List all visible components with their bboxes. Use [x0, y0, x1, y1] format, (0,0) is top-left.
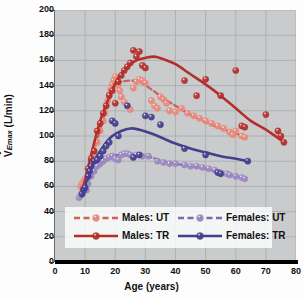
data-point	[109, 88, 115, 94]
data-point	[136, 152, 142, 158]
data-point	[203, 76, 209, 82]
data-point	[94, 128, 100, 134]
data-point	[163, 100, 169, 106]
x-tick-label: 0	[43, 266, 67, 276]
data-point	[242, 124, 248, 130]
data-point	[172, 109, 178, 115]
legend: Males: UTFemales: UTMales: TRFemales: TR	[65, 207, 272, 248]
y-tick-mark	[49, 237, 54, 238]
data-point	[154, 158, 160, 164]
data-point	[233, 128, 239, 134]
x-axis-line	[55, 260, 298, 264]
data-point	[233, 173, 239, 179]
data-point	[281, 139, 287, 145]
data-point	[106, 139, 112, 145]
data-point	[181, 146, 187, 152]
data-point	[154, 105, 160, 111]
data-point	[145, 153, 151, 159]
y-tick-mark	[49, 186, 54, 187]
data-point	[178, 105, 184, 111]
x-tick-label: 40	[164, 266, 188, 276]
data-point	[263, 111, 269, 117]
legend-item-males-tr[interactable]: Males: TR	[73, 227, 169, 244]
data-point	[187, 163, 193, 169]
data-point	[184, 110, 190, 116]
data-point	[115, 79, 121, 85]
data-point	[91, 148, 97, 154]
legend-label: Females: TR	[226, 230, 285, 241]
y-axis-title-wrap: VEmax (L/min)	[0, 0, 18, 262]
data-point	[157, 122, 163, 128]
data-point	[136, 48, 142, 54]
data-point	[166, 108, 172, 114]
data-point	[181, 77, 187, 83]
legend-swatch-icon	[73, 230, 119, 242]
y-tick-mark	[49, 10, 54, 11]
data-point	[209, 120, 215, 126]
data-point	[221, 125, 227, 131]
x-axis-tick-labels: 01020304050607080	[0, 266, 303, 280]
y-tick-mark	[49, 161, 54, 162]
data-point	[200, 164, 206, 170]
data-point	[197, 115, 203, 121]
data-point	[130, 85, 136, 91]
legend-item-males-ut[interactable]: Males: UT	[73, 209, 169, 226]
y-axis-tick-marks	[49, 0, 55, 299]
data-point	[227, 172, 233, 178]
data-point	[124, 103, 130, 109]
data-point	[172, 161, 178, 167]
data-point	[203, 152, 209, 158]
data-point	[242, 134, 248, 140]
y-tick-mark	[49, 136, 54, 137]
data-point	[100, 110, 106, 116]
data-point	[193, 93, 199, 99]
data-point	[181, 162, 187, 168]
data-point	[245, 158, 251, 164]
x-tick-label: 20	[103, 266, 127, 276]
y-axis-title: VEmax (L/min)	[3, 64, 14, 188]
data-point	[160, 159, 166, 165]
legend-swatch-icon	[177, 230, 223, 242]
data-point	[127, 60, 133, 66]
data-point	[148, 114, 154, 120]
data-point	[115, 133, 121, 139]
y-tick-mark	[49, 86, 54, 87]
data-point	[142, 113, 148, 119]
x-axis-title: Age (years)	[0, 281, 303, 292]
data-point	[278, 133, 284, 139]
data-point	[142, 65, 148, 71]
data-point	[103, 103, 109, 109]
y-tick-mark	[49, 111, 54, 112]
data-point	[215, 123, 221, 129]
y-tick-mark	[49, 262, 54, 263]
x-tick-label: 60	[224, 266, 248, 276]
data-point	[203, 118, 209, 124]
data-point	[112, 100, 118, 106]
x-tick-label: 70	[254, 266, 278, 276]
legend-swatch-icon	[73, 212, 119, 224]
data-point	[112, 120, 118, 126]
data-point	[190, 113, 196, 119]
legend-label: Males: UT	[122, 212, 169, 223]
x-tick-label: 10	[73, 266, 97, 276]
legend-item-females-ut[interactable]: Females: UT	[177, 209, 285, 226]
data-point	[142, 80, 148, 86]
legend-label: Males: TR	[122, 230, 169, 241]
y-axis-title-subscript: Emax	[5, 130, 14, 150]
data-point	[166, 161, 172, 167]
data-point	[242, 176, 248, 182]
data-point	[130, 47, 136, 53]
legend-item-females-tr[interactable]: Females: TR	[177, 227, 285, 244]
data-point	[82, 185, 88, 191]
data-point	[206, 166, 212, 172]
legend-swatch-icon	[177, 212, 223, 224]
data-point	[117, 88, 123, 94]
legend-label: Females: UT	[226, 212, 285, 223]
y-tick-mark	[49, 60, 54, 61]
data-point	[218, 171, 224, 177]
data-point	[233, 67, 239, 73]
data-point	[130, 154, 136, 160]
figure-vemax-vs-age: 020406080100120140160180200 010203040506…	[0, 0, 303, 299]
data-point	[193, 163, 199, 169]
data-point	[97, 120, 103, 126]
